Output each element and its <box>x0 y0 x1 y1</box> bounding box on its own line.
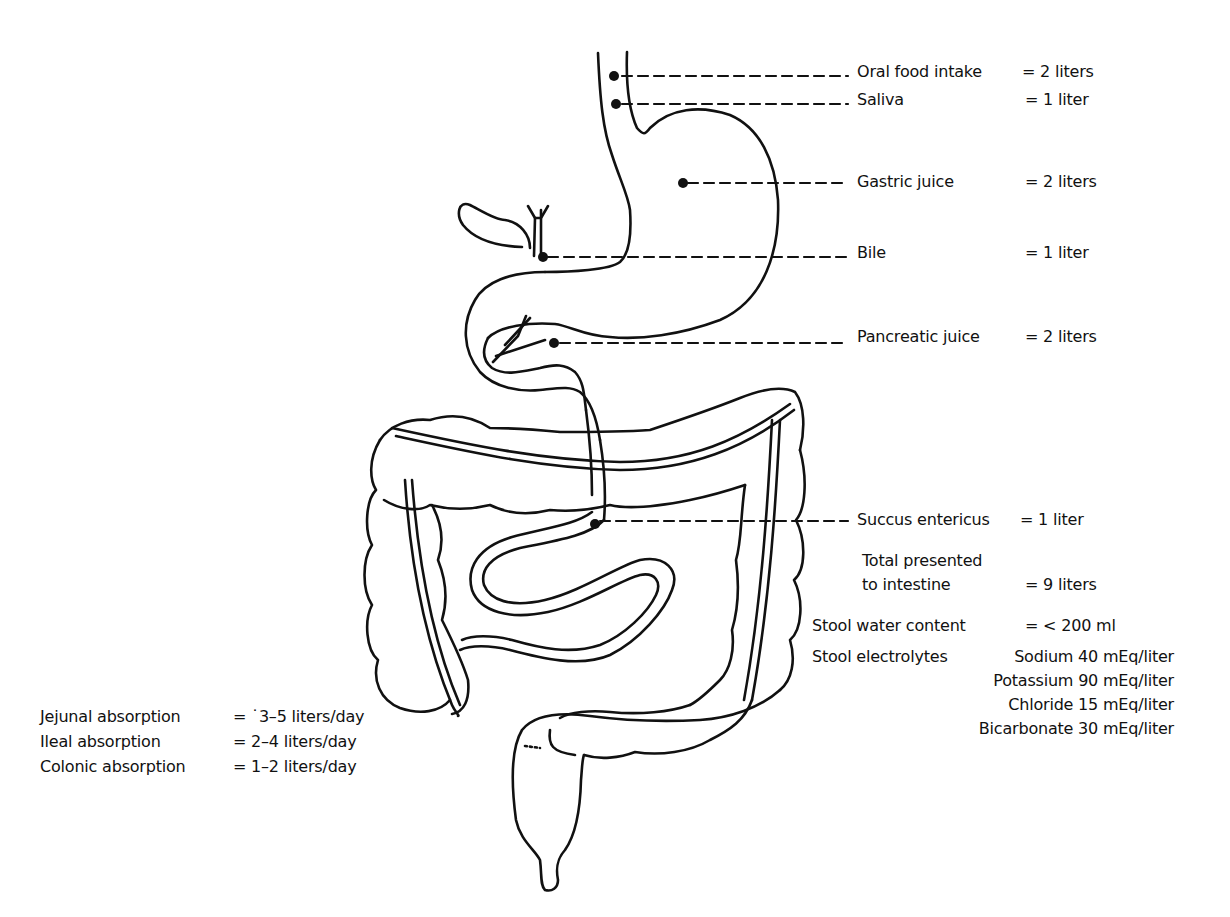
leader-lines <box>548 76 848 521</box>
ascending-colon-outline <box>365 440 469 716</box>
dot-succus <box>590 519 600 529</box>
dot-gastric <box>678 178 688 188</box>
dot-pancreatic <box>549 338 559 348</box>
secretion-dots <box>538 71 688 529</box>
dot-bile <box>538 252 548 262</box>
label-total-line1: Total presented <box>862 551 982 570</box>
electrolyte-chloride: Chloride 15 mEq/liter <box>1008 695 1174 714</box>
sigmoid-rectum-outline <box>513 690 780 891</box>
gallbladder-outline <box>459 204 548 256</box>
stomach-esophagus-outline <box>466 52 778 520</box>
dot-oral-food <box>609 71 619 81</box>
descending-colon-outline <box>690 420 805 705</box>
label-stool-electrolytes: Stool electrolytes <box>812 647 948 666</box>
electrolyte-bicarbonate: Bicarbonate 30 mEq/liter <box>979 719 1174 738</box>
dot-saliva <box>611 99 621 109</box>
electrolyte-potassium: Potassium 90 mEq/liter <box>993 671 1174 690</box>
small-intestine-outline <box>460 512 674 661</box>
gi-tract-illustration <box>0 0 1230 917</box>
electrolyte-sodium: Sodium 40 mEq/liter <box>1014 647 1174 666</box>
